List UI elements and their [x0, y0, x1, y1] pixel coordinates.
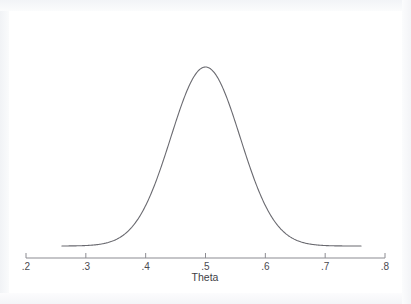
- x-axis-tick-label: .3: [82, 261, 91, 272]
- x-axis: .2.3.4.5.6.7.8: [22, 253, 390, 272]
- x-axis-tick-marks: [26, 253, 385, 258]
- x-axis-tick-label: .8: [381, 261, 390, 272]
- x-axis-tick-label: .4: [141, 261, 150, 272]
- x-axis-title: Theta: [192, 271, 219, 283]
- x-axis-tick-label: .6: [261, 261, 270, 272]
- density-plot-figure: .2.3.4.5.6.7.8 Theta: [0, 0, 411, 304]
- plot-area: [62, 67, 361, 246]
- x-axis-tick-label: .7: [321, 261, 330, 272]
- x-axis-tick-label: .2: [22, 261, 31, 272]
- density-curve: [62, 67, 361, 246]
